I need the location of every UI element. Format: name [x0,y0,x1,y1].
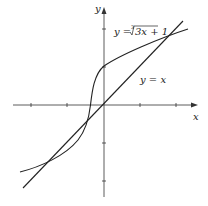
y-axis-label: y [94,3,101,14]
graph-canvas: y x y = 3 3x + 1 y = x [0,0,208,206]
svg-text:3x + 1: 3x + 1 [135,26,168,37]
y-axis-arrow-icon [102,7,107,14]
svg-text:y =: y = [113,26,131,37]
identity-label: y = x [139,74,166,85]
x-axis-arrow-icon [191,103,198,108]
cube-root-label: y = 3 3x + 1 [113,24,168,37]
x-axis-label: x [193,111,199,122]
